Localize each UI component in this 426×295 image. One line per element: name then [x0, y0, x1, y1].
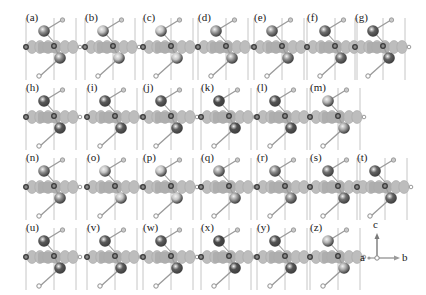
panel-label: (z) [310, 221, 322, 233]
structure-panel: (k) [199, 84, 257, 152]
panel-label: (h) [26, 81, 39, 93]
panel-label: (j) [143, 81, 153, 93]
panel-label: (r) [257, 151, 268, 163]
structure-panel: (d) [196, 14, 254, 82]
structure-panel: (l) [255, 84, 313, 152]
crystal-structure-icon [85, 84, 143, 152]
structure-panel: (q) [199, 154, 257, 222]
panel-label: (f) [307, 11, 318, 23]
structure-panel: (u) [24, 224, 82, 292]
structure-panel: (a) [24, 14, 82, 82]
structure-panel: (r) [255, 154, 313, 222]
panel-label: (t) [357, 151, 367, 163]
crystal-structure-icon [255, 224, 313, 292]
structure-panel: (n) [24, 154, 82, 222]
crystal-structure-icon [24, 224, 82, 292]
crystal-structure-icon [141, 224, 199, 292]
crystal-structure-icon [141, 14, 199, 82]
structure-panel: (g) [353, 14, 411, 82]
panel-label: (i) [87, 81, 97, 93]
panel-label: (x) [201, 221, 214, 233]
crystal-structure-icon [85, 224, 143, 292]
panel-label: (w) [143, 221, 158, 233]
structure-panel: (z) [308, 224, 366, 292]
panel-label: (v) [87, 221, 100, 233]
structure-panel: (t) [355, 154, 413, 222]
crystal-structure-icon [199, 224, 257, 292]
crystal-structure-icon [83, 14, 141, 82]
panel-label: (e) [254, 11, 266, 23]
panel-label: (o) [87, 151, 100, 163]
panel-label: (y) [257, 221, 270, 233]
panel-label: (b) [85, 11, 98, 23]
panel-label: (k) [201, 81, 214, 93]
structure-panel: (c) [141, 14, 199, 82]
structure-panel: (p) [141, 154, 199, 222]
crystal-structure-icon [255, 154, 313, 222]
structure-panel: (h) [24, 84, 82, 152]
panel-label: (c) [143, 11, 155, 23]
axis-indicator: c a b [360, 222, 420, 272]
structure-panel: (o) [85, 154, 143, 222]
crystal-structure-icon [24, 84, 82, 152]
crystal-structure-icon [308, 84, 366, 152]
crystal-structure-icon [141, 154, 199, 222]
panel-label: (n) [26, 151, 39, 163]
crystal-structure-icon [252, 14, 310, 82]
panel-label: (a) [26, 11, 38, 23]
panel-label: (u) [26, 221, 39, 233]
crystal-structure-icon [24, 14, 82, 82]
crystal-structure-icon [308, 224, 366, 292]
crystal-structure-icon [24, 154, 82, 222]
crystal-structure-icon [196, 14, 254, 82]
structure-panel: (m) [308, 84, 366, 152]
structure-panel: (x) [199, 224, 257, 292]
axis-label-a: a [360, 251, 365, 263]
structure-panel: (i) [85, 84, 143, 152]
panel-label: (s) [310, 151, 322, 163]
panel-label: (q) [201, 151, 214, 163]
crystal-structure-icon [255, 84, 313, 152]
crystal-structure-icon [355, 154, 413, 222]
structure-panel: (w) [141, 224, 199, 292]
structure-panel: (j) [141, 84, 199, 152]
structure-panel: (y) [255, 224, 313, 292]
panel-label: (m) [310, 81, 326, 93]
crystal-structure-icon [141, 84, 199, 152]
axis-label-c: c [373, 218, 378, 230]
crystal-structure-icon [199, 84, 257, 152]
panel-label: (d) [198, 11, 211, 23]
structure-panel: (b) [83, 14, 141, 82]
panel-label: (g) [355, 11, 368, 23]
crystal-structure-icon [85, 154, 143, 222]
crystal-structure-icon [353, 14, 411, 82]
panel-label: (l) [257, 81, 267, 93]
structure-panel: (e) [252, 14, 310, 82]
axis-arrows-icon [360, 222, 420, 272]
crystal-structure-icon [199, 154, 257, 222]
structure-panel: (v) [85, 224, 143, 292]
axis-label-b: b [402, 251, 408, 263]
panel-label: (p) [143, 151, 156, 163]
